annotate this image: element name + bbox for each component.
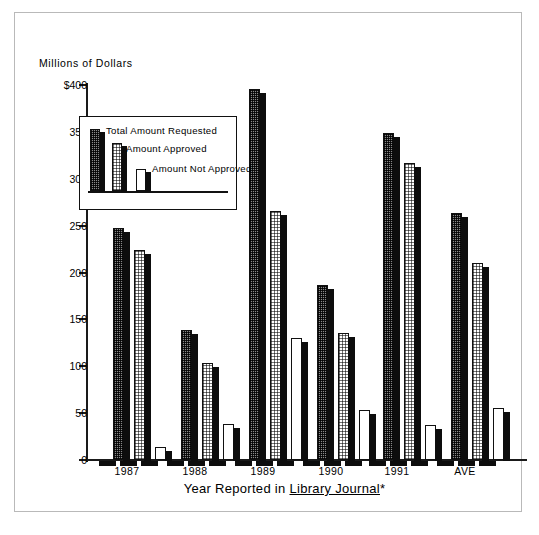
bar-shadow (301, 342, 308, 461)
legend-swatch-shadow (145, 172, 151, 192)
legend-label-approved: Amount Approved (126, 143, 207, 154)
bar-1991-approved (404, 163, 415, 460)
bar-group-1990 (317, 85, 385, 460)
x-tick-label-ave: AVE (437, 465, 493, 477)
bar-1988-requested (181, 330, 192, 460)
bar-1988-not-approved (223, 424, 234, 460)
legend-swatch-not_approved (136, 169, 146, 191)
y-tick-label: 200 (41, 267, 87, 279)
bar-shadow (503, 412, 510, 461)
y-tick-label: 0 (41, 454, 87, 466)
legend-swatch-requested (90, 129, 100, 191)
caption-prefix: Year Reported in (184, 481, 290, 496)
bar-shadow (212, 367, 219, 461)
bar-group-1991 (383, 85, 451, 460)
bar-1987-not-approved (155, 447, 166, 460)
legend-label-not_approved: Amount Not Approved (152, 163, 252, 174)
legend-swatch-shadow (99, 132, 105, 192)
bar-1989-requested (249, 89, 260, 460)
bar-shadow (280, 215, 287, 461)
figure-frame: Millions of Dollars 05010015020025030035… (14, 12, 522, 512)
bar-shadow (191, 334, 198, 461)
bar-1991-not-approved (425, 425, 436, 460)
x-tick-label-1987: 1987 (99, 465, 155, 477)
bar-ave-not-approved (493, 408, 504, 460)
bar-1989-not-approved (291, 338, 302, 460)
bar-1990-approved (338, 333, 349, 460)
bar-1991-requested (383, 133, 394, 460)
bar-shadow (393, 137, 400, 461)
chart-legend: Total Amount RequestedAmount ApprovedAmo… (79, 116, 237, 210)
bar-shadow (144, 254, 151, 461)
caption-source-journal: Library Journal (289, 481, 380, 496)
bar-shadow (435, 429, 442, 461)
y-tick-label: $400 (41, 79, 87, 91)
bar-shadow (233, 428, 240, 461)
bar-shadow (327, 289, 334, 461)
bar-group-1989 (249, 85, 317, 460)
y-axis-ticks: 050100150200250300350$400 (15, 13, 87, 535)
bar-ave-approved (472, 263, 483, 460)
bar-shadow (348, 337, 355, 461)
y-tick-label: 100 (41, 360, 87, 372)
chart-page: Millions of Dollars 05010015020025030035… (0, 0, 539, 535)
x-axis-caption: Year Reported in Library Journal* (15, 481, 539, 496)
bar-1990-requested (317, 285, 328, 460)
bar-1987-approved (134, 250, 145, 460)
bar-ave-requested (451, 213, 462, 461)
legend-baseline (88, 191, 228, 193)
caption-footnote-marker: * (380, 481, 385, 496)
bar-shadow (461, 217, 468, 462)
x-tick-label-1989: 1989 (235, 465, 291, 477)
bar-shadow (123, 232, 130, 461)
bar-1990-not-approved (359, 410, 370, 460)
bar-shadow (482, 267, 489, 461)
bar-1989-approved (270, 211, 281, 460)
x-tick-label-1991: 1991 (369, 465, 425, 477)
bar-shadow (259, 93, 266, 461)
x-tick-label-1990: 1990 (303, 465, 359, 477)
x-tick-label-1988: 1988 (167, 465, 223, 477)
y-tick-label: 50 (41, 407, 87, 419)
legend-label-requested: Total Amount Requested (106, 125, 217, 136)
bar-group-ave (451, 85, 519, 460)
bar-shadow (369, 414, 376, 461)
bar-shadow (414, 167, 421, 461)
bar-1987-requested (113, 228, 124, 460)
y-tick-label: 150 (41, 313, 87, 325)
y-tick-label: 250 (41, 220, 87, 232)
bar-shadow (165, 451, 172, 461)
legend-swatch-approved (112, 143, 122, 191)
bar-1988-approved (202, 363, 213, 460)
